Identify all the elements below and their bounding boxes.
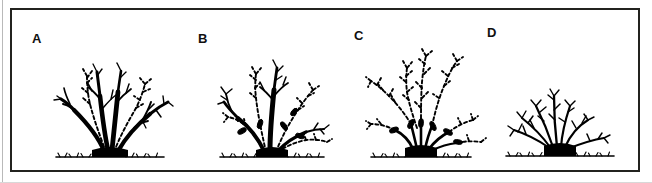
panel-d: D [482, 10, 638, 170]
panel-label-d: D [487, 26, 496, 39]
old-canes-a [54, 63, 173, 151]
panel-container: A [12, 10, 638, 170]
scan-edge-rule-bottom [0, 182, 652, 183]
new-shoots-c [366, 49, 486, 143]
young-canes-d [508, 89, 610, 148]
panel-c: C [347, 10, 495, 170]
panel-b: B [182, 10, 347, 170]
cut-mark [256, 119, 264, 130]
cut-mark [289, 107, 298, 117]
panel-a: A [12, 10, 182, 170]
old-canes-b [218, 60, 329, 151]
shrub-illustration-a [30, 38, 190, 168]
scan-edge-rule-left [2, 0, 3, 183]
shrub-illustration-b [190, 38, 350, 168]
cut-mark [237, 127, 247, 136]
pruning-figure: A [0, 0, 652, 183]
cut-mark [418, 118, 423, 128]
old-canes-c [395, 124, 457, 150]
shrub-illustration-d [482, 54, 638, 168]
cut-mark [279, 121, 288, 132]
shrub-illustration-c [347, 36, 497, 168]
cut-mark [407, 119, 416, 130]
figure-frame: A [10, 8, 640, 172]
